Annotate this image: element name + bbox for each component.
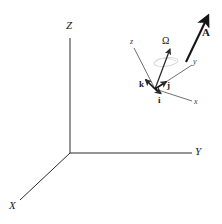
axis-label-Y: Y bbox=[195, 146, 201, 157]
axis-label-Z: Z bbox=[66, 20, 72, 31]
angular-velocity-label-omega: Ω bbox=[162, 36, 169, 46]
axis-label-y-small: y bbox=[193, 58, 197, 66]
axis-label-z-small: z bbox=[130, 38, 133, 46]
axis-X-line bbox=[20, 153, 70, 200]
rotating-frame-axes bbox=[134, 48, 192, 101]
unit-vector-label-j: j bbox=[167, 81, 170, 90]
unit-vector-label-i: i bbox=[158, 96, 161, 105]
axis-label-X: X bbox=[9, 200, 16, 211]
vector-A-line bbox=[186, 16, 208, 62]
fixed-frame-axes bbox=[20, 38, 192, 200]
axis-z-small-line bbox=[134, 48, 155, 89]
coordinate-frame-diagram bbox=[0, 0, 222, 224]
figure-canvas: Z Y X z y x i j k Ω A bbox=[0, 0, 222, 224]
vector-label-A: A bbox=[202, 27, 210, 38]
unit-vector-label-k: k bbox=[139, 80, 144, 89]
unit-vector-k-line bbox=[146, 80, 156, 90]
vector-A bbox=[186, 16, 208, 62]
axis-label-x-small: x bbox=[194, 98, 198, 106]
